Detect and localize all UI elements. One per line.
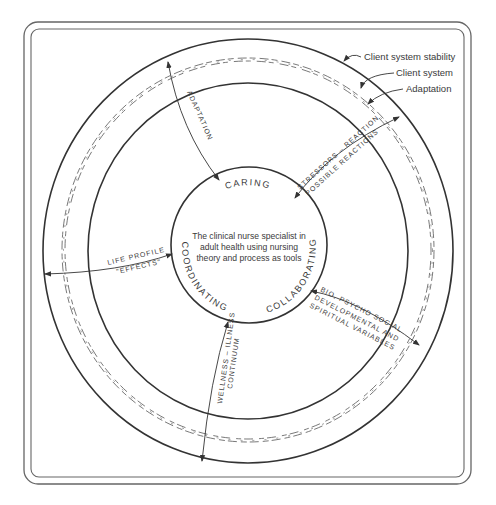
svg-text:STRESSORS – REACTION: STRESSORS – REACTION <box>296 114 380 191</box>
svg-text:theory and process as tools: theory and process as tools <box>196 253 301 263</box>
svg-text:Client system: Client system <box>396 67 453 78</box>
svg-text:POSSIBLE REACTIONS: POSSIBLE REACTIONS <box>304 128 380 197</box>
leader-adaptation <box>368 89 403 104</box>
svg-text:Adaptation: Adaptation <box>406 83 451 94</box>
svg-text:The clinical nurse specialist: The clinical nurse specialist in <box>192 231 306 241</box>
label-bio-psycho-social: BIO, PSYCHO SOCIAL DEVELOPMENTAL AND SPI… <box>309 286 404 351</box>
nursing-model-diagram: CARING COORDINATING COLLABORATING The cl… <box>0 0 496 505</box>
svg-text:adult health using nursing: adult health using nursing <box>200 242 298 252</box>
svg-text:SPIRITUAL VARIABLES: SPIRITUAL VARIABLES <box>309 302 397 351</box>
svg-text:Client system stability: Client system stability <box>364 51 456 62</box>
label-life-profile: LIFE PROFILE "EFFECTS" <box>107 246 166 275</box>
label-stressors: STRESSORS – REACTION POSSIBLE REACTIONS <box>296 114 380 197</box>
arrow-adaptation <box>168 62 219 180</box>
label-wellness: WELLNESS – ILLNESS CONTINUUM <box>216 311 240 404</box>
leader-stability <box>344 55 361 61</box>
center-description: The clinical nurse specialist in adult h… <box>192 231 306 263</box>
